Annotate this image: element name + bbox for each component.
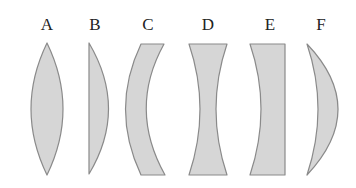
lens-c-meniscus-shape — [126, 44, 166, 175]
label-f: F — [316, 15, 325, 34]
label-a: A — [41, 15, 54, 34]
lens-e-planoconcave-shape — [250, 44, 285, 175]
label-c: C — [142, 15, 153, 34]
lens-d-biconcave-shape — [189, 44, 227, 175]
lens-diagram: A B C D E F — [0, 0, 356, 188]
label-e: E — [265, 15, 275, 34]
label-b: B — [89, 15, 100, 34]
lens-shapes — [31, 43, 338, 175]
lens-labels: A B C D E F — [41, 15, 326, 34]
label-d: D — [202, 15, 214, 34]
lens-b-planoconvex-shape — [89, 43, 109, 174]
lens-f-meniscus-shape — [307, 44, 338, 175]
lens-a-biconvex-shape — [31, 43, 63, 175]
